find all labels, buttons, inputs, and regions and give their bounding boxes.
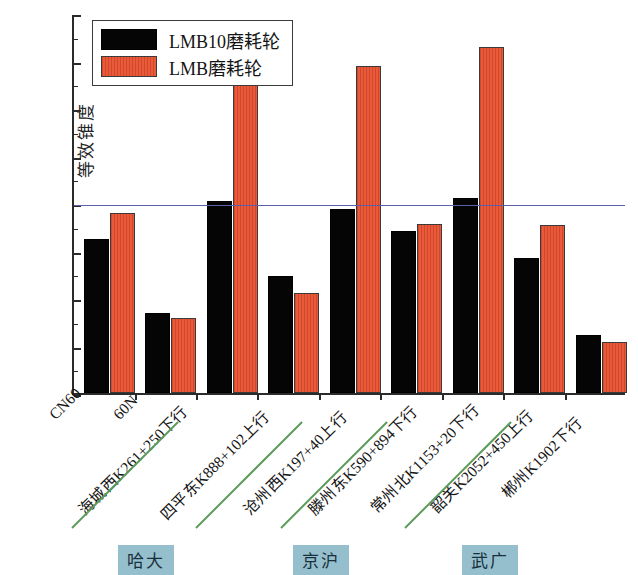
plot-area: 等效锥度 0.0 0.1 0.2 0.3 0.4 0.5 0.6 0.7 0.8 [72,15,625,395]
bar-series-b[interactable] [294,293,319,393]
bar-series-b[interactable] [602,342,627,393]
group-label-line-1: 哈大 [118,545,174,575]
group-label-line-3: 武广 [462,545,518,575]
bar-series-a[interactable] [576,335,601,393]
legend-swatch-icon [101,29,157,50]
group-label-line-2: 京沪 [293,545,349,575]
x-axis-tick [442,393,444,400]
bar-series-b[interactable] [479,47,504,393]
legend-item-series-a[interactable]: LMB10磨耗轮 [101,26,280,53]
x-category-label: 常州北K1153+20下行 [364,398,483,517]
reference-line-040 [74,205,625,206]
legend-label: LMB10磨耗轮 [169,27,280,53]
x-axis-tick [257,393,259,400]
bar-series-a[interactable] [453,198,478,393]
x-axis-tick [380,393,382,400]
legend: LMB10磨耗轮 LMB磨耗轮 [92,20,293,86]
bar-series-b[interactable] [171,318,196,393]
bar-series-a[interactable] [145,313,170,393]
bar-series-b[interactable] [110,213,135,394]
bar-series-a[interactable] [268,276,293,393]
bar-series-b[interactable] [540,225,565,393]
x-axis-tick [319,393,321,400]
bar-series-b[interactable] [417,224,442,393]
x-axis-tick [565,393,567,400]
bar-series-a[interactable] [391,231,416,393]
legend-label: LMB磨耗轮 [169,54,262,80]
bar-series-a[interactable] [330,209,355,393]
bar-series-b[interactable] [356,66,381,393]
bar-series-a[interactable] [207,201,232,393]
bar-series-b[interactable] [233,70,258,393]
legend-swatch-icon [101,56,157,77]
legend-item-series-b[interactable]: LMB磨耗轮 [101,53,280,80]
x-category-label: 滕州东K590+894下行 [302,400,421,519]
bar-series-a[interactable] [84,239,109,393]
x-axis-tick [196,393,198,400]
bar-series-a[interactable] [514,258,539,393]
x-axis-tick [503,393,505,400]
